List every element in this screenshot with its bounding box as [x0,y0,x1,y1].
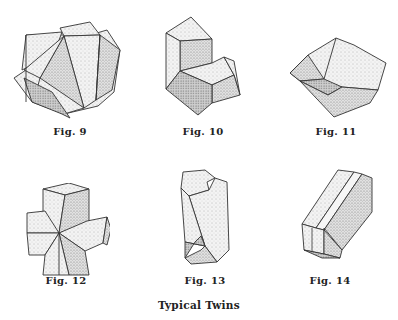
figure-13-caption: Fig. 13 [165,275,245,286]
spinel-twin-drawing [288,35,388,120]
diagram-title: Typical Twins [0,299,398,311]
contact-twin-drawing [160,15,250,120]
figure-11-spinel-twin [288,35,388,120]
figure-11-caption: Fig. 11 [296,126,376,137]
figure-14-polysynthetic-twin [300,166,375,261]
figure-13-swallowtail-twin [175,166,235,266]
polysynthetic-twin-drawing [300,166,375,261]
figure-9-cube-twin [12,20,127,120]
cube-twin-drawing [12,20,127,120]
figure-12-cruciform-twin [25,183,110,278]
figure-12-caption: Fig. 12 [26,275,106,286]
figure-9-caption: Fig. 9 [30,126,110,137]
figure-14-caption: Fig. 14 [290,275,370,286]
cruciform-twin-drawing [25,183,110,278]
swallowtail-twin-drawing [175,166,235,266]
figure-10-caption: Fig. 10 [163,126,243,137]
figure-10-contact-twin [160,15,250,120]
